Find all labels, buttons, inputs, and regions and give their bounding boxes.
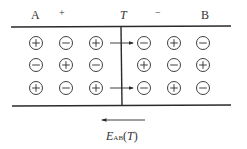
- negative-charge-icon: [138, 82, 151, 95]
- field-label: EAB(T): [106, 130, 138, 142]
- junction-divider-line: [121, 27, 122, 106]
- positive-charge-icon: [90, 82, 103, 95]
- negative-charge-icon: [60, 82, 73, 95]
- top-boundary-line: [11, 26, 231, 27]
- metal-a-label: A: [31, 9, 40, 21]
- negative-charge-icon: [197, 37, 210, 50]
- negative-charge-icon: [138, 37, 151, 50]
- metal-b-label: B: [201, 9, 209, 21]
- negative-charge-icon: [60, 37, 73, 50]
- charge-grid: [30, 37, 210, 95]
- positive-charge-icon: [168, 37, 181, 50]
- positive-charge-icon: [30, 82, 43, 95]
- positive-charge-icon: [30, 37, 43, 50]
- negative-charge-icon: [90, 59, 103, 72]
- negative-charge-icon: [30, 59, 43, 72]
- positive-charge-icon: [168, 82, 181, 95]
- positive-charge-icon: [90, 37, 103, 50]
- positive-charge-icon: [197, 59, 210, 72]
- negative-charge-icon: [168, 59, 181, 72]
- negative-charge-icon: [197, 82, 210, 95]
- thermocouple-contact-diagram: [0, 0, 247, 149]
- field-argument: (T): [123, 129, 138, 143]
- positive-charge-icon: [60, 59, 73, 72]
- junction-t-label: T: [120, 9, 127, 21]
- left-positive-sign: +: [59, 8, 65, 18]
- right-negative-sign: −: [155, 8, 161, 18]
- field-subscript: AB: [113, 134, 123, 142]
- positive-charge-icon: [138, 59, 151, 72]
